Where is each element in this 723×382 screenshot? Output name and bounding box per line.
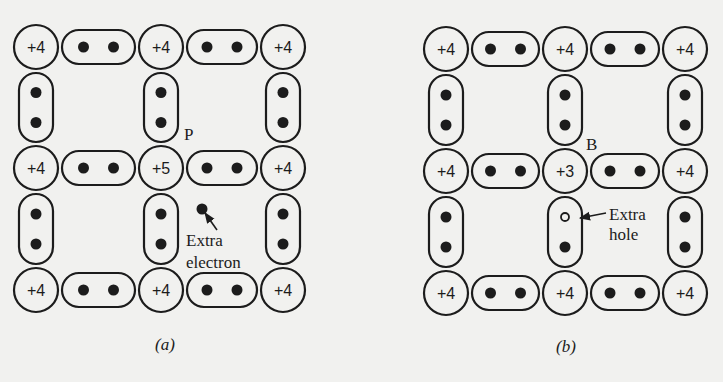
atom-charge-label: +4 [27, 39, 45, 56]
atom-charge-label: +4 [152, 282, 170, 299]
atom-charge-label: +5 [152, 160, 170, 177]
covalent-bond-vertical [429, 75, 463, 145]
panel-caption: (a) [155, 335, 175, 354]
electron-dot [278, 117, 289, 128]
electron-dot [485, 288, 496, 299]
impurity-label: B [586, 135, 597, 154]
atom-charge-label: +4 [556, 41, 574, 58]
covalent-bond-horizontal [591, 276, 659, 310]
atom-charge-label: +4 [437, 285, 455, 302]
electron-dot [78, 42, 89, 53]
atom-core: +4 [261, 146, 305, 190]
electron-dot [278, 209, 289, 220]
electron-dot [605, 166, 616, 177]
crystal-lattice-figure: +4+4+4+4+5+4+4+4+4PExtraelectron(a)+4+4+… [0, 0, 723, 382]
covalent-bond-horizontal [62, 30, 135, 64]
annotation-arrow-icon [205, 213, 217, 230]
electron-dot [156, 209, 167, 220]
electron-dot [232, 285, 243, 296]
electron-dot [680, 90, 691, 101]
covalent-bond-horizontal [62, 273, 135, 307]
covalent-bond-vertical [19, 194, 53, 264]
atom-charge-label: +4 [152, 39, 170, 56]
electron-dot [560, 120, 571, 131]
electron-dot [441, 212, 452, 223]
electron-dot [156, 117, 167, 128]
hole-marker [561, 213, 569, 221]
panel-caption: (b) [556, 337, 576, 356]
atom-core: +4 [543, 271, 587, 315]
atom-charge-label: +3 [556, 163, 574, 180]
electron-dot [485, 166, 496, 177]
atom-core: +4 [14, 268, 58, 312]
electron-dot [635, 288, 646, 299]
electron-dot [78, 285, 89, 296]
electron-dot [515, 166, 526, 177]
covalent-bond-horizontal [187, 151, 257, 185]
electron-dot [441, 242, 452, 253]
atom-core: +4 [261, 25, 305, 69]
electron-dot [605, 288, 616, 299]
electron-dot [485, 44, 496, 55]
covalent-bond-horizontal [187, 273, 257, 307]
covalent-bond-horizontal [62, 151, 135, 185]
covalent-bond-vertical [144, 73, 178, 142]
electron-dot [31, 87, 42, 98]
electron-dot [680, 242, 691, 253]
electron-dot [680, 120, 691, 131]
atom-charge-label: +4 [437, 163, 455, 180]
covalent-bond-horizontal [591, 154, 659, 188]
electron-dot [78, 163, 89, 174]
atom-core: +4 [139, 268, 183, 312]
atom-core: +4 [14, 25, 58, 69]
atom-core: +4 [663, 271, 707, 315]
electron-dot [202, 285, 213, 296]
electron-dot [441, 120, 452, 131]
atom-charge-label: +4 [274, 39, 292, 56]
covalent-bond-vertical [266, 194, 300, 264]
covalent-bond-vertical [144, 194, 178, 264]
atom-core: +4 [261, 268, 305, 312]
electron-dot [108, 285, 119, 296]
electron-dot [635, 166, 646, 177]
atom-core: +4 [663, 149, 707, 193]
electron-dot [156, 239, 167, 250]
annotation-text: electron [186, 253, 241, 272]
atom-charge-label: +4 [676, 285, 694, 302]
atom-core: +4 [424, 271, 468, 315]
electron-dot [635, 44, 646, 55]
electron-dot [278, 239, 289, 250]
atom-core: +4 [424, 149, 468, 193]
atom-charge-label: +4 [676, 41, 694, 58]
electron-dot [108, 163, 119, 174]
panel-a: +4+4+4+4+5+4+4+4+4PExtraelectron(a) [14, 25, 305, 354]
electron-dot [278, 87, 289, 98]
covalent-bond-vertical [668, 75, 702, 145]
semiconductor-doping-diagram: +4+4+4+4+5+4+4+4+4PExtraelectron(a)+4+4+… [0, 0, 723, 382]
electron-dot [515, 44, 526, 55]
electron-dot [680, 212, 691, 223]
electron-dot [31, 239, 42, 250]
covalent-bond-horizontal [472, 32, 539, 66]
impurity-label: P [184, 125, 193, 144]
atom-charge-label: +4 [437, 41, 455, 58]
atom-core: +4 [139, 25, 183, 69]
electron-dot [202, 42, 213, 53]
atom-charge-label: +4 [676, 163, 694, 180]
electron-dot [605, 44, 616, 55]
atom-charge-label: +4 [274, 160, 292, 177]
electron-dot [202, 163, 213, 174]
covalent-bond-horizontal [591, 32, 659, 66]
electron-dot [515, 288, 526, 299]
covalent-bond-vertical [429, 197, 463, 267]
atom-charge-label: +4 [27, 160, 45, 177]
covalent-bond-horizontal [472, 154, 539, 188]
atom-core: +4 [543, 27, 587, 71]
atom-charge-label: +4 [27, 282, 45, 299]
atom-core: +4 [663, 27, 707, 71]
electron-dot [232, 42, 243, 53]
atom-core: +5 [139, 146, 183, 190]
electron-dot [232, 163, 243, 174]
electron-dot [31, 117, 42, 128]
annotation-text: Extra [609, 205, 646, 224]
